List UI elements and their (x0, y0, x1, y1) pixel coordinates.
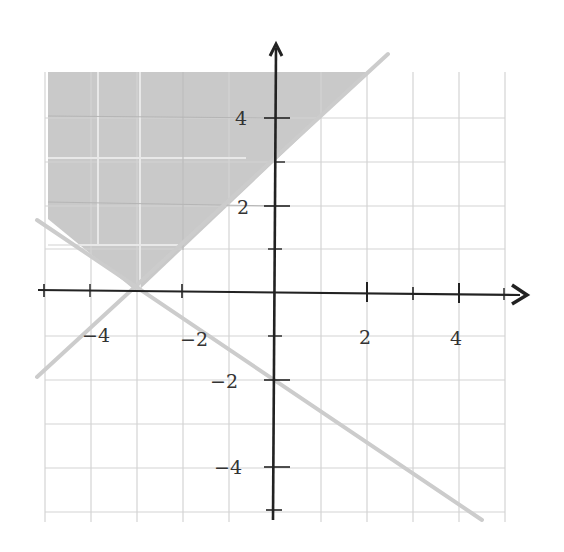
x-tick-label: 2 (359, 326, 371, 348)
line-y-eq-neg-two-thirds-x-minus-2 (37, 220, 482, 520)
y-tick-label: 4 (235, 107, 247, 129)
x-tick-label: 4 (450, 327, 462, 349)
y-tick-label: −2 (210, 370, 238, 392)
x-tick-label: −4 (82, 324, 110, 346)
x-tick-label: −2 (180, 328, 208, 350)
coordinate-plane: −4 −2 2 4 4 2 −2 −4 (0, 0, 564, 552)
y-tick-label: 2 (237, 196, 249, 218)
x-axis (38, 290, 520, 295)
y-tick-label: −4 (214, 456, 242, 478)
